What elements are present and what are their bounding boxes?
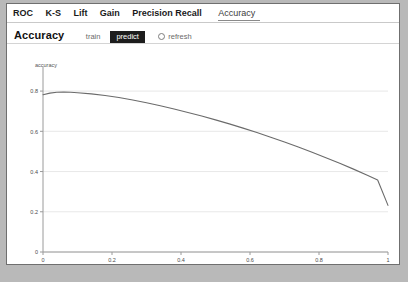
x-tick-label: 0 [41,257,44,263]
x-tick-label: 0.6 [246,257,254,263]
metric-tab-bar[interactable]: ROC K-S Lift Gain Precision Recall Accur… [7,4,399,23]
tab-accuracy[interactable]: Accuracy [218,7,260,21]
x-tick-label: 0.8 [315,257,323,263]
page-title: Accuracy [14,28,64,43]
refresh-label: refresh [168,32,191,42]
x-tick-label: 1 [386,257,389,263]
y-tick-label: 0.8 [30,88,38,94]
accuracy-chart: accuracy 00.20.40.60.800.20.40.60.81 [7,45,401,265]
y-tick-label: 0 [35,249,38,255]
y-tick-label: 0.2 [30,209,38,215]
predict-button[interactable]: predict [110,31,145,43]
x-tick-label: 0.2 [108,257,116,263]
chart-canvas: 00.20.40.60.800.20.40.60.81 [7,45,401,265]
train-button[interactable]: train [81,31,106,43]
tab-ks[interactable]: K-S [45,7,66,21]
refresh-toggle[interactable]: refresh [158,27,191,45]
x-tick-label: 0.4 [177,257,185,263]
tab-precision-recall[interactable]: Precision Recall [132,7,207,21]
y-tick-label: 0.6 [30,129,38,135]
dataset-toggle-group[interactable]: trainpredict [81,27,145,45]
y-axis-label: accuracy [35,62,57,69]
chart-toolbar: Accuracy trainpredict refresh [7,24,399,44]
y-tick-label: 0.4 [30,169,38,175]
tab-gain[interactable]: Gain [100,7,125,21]
accuracy-line [43,92,388,205]
refresh-radio-icon[interactable] [158,33,165,40]
tab-roc[interactable]: ROC [13,7,38,21]
tab-lift[interactable]: Lift [73,7,92,21]
application-window: ROC K-S Lift Gain Precision Recall Accur… [0,0,408,282]
accuracy-panel: ROC K-S Lift Gain Precision Recall Accur… [6,3,400,265]
